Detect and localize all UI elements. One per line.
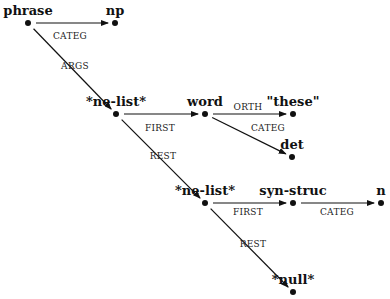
edge-label: CATEG xyxy=(53,32,87,41)
node-label-nelist2: *ne-list* xyxy=(175,184,235,197)
node-dot xyxy=(112,20,118,26)
node-label-phrase: phrase xyxy=(3,4,52,17)
feature-structure-diagram: CATEGARGSFIRSTORTHCATEGRESTFIRSTCATEGRES… xyxy=(0,0,390,299)
node-label-these: "these" xyxy=(267,95,320,108)
node-label-null: *null* xyxy=(272,273,314,286)
node-dot xyxy=(290,289,296,295)
node-dot xyxy=(289,154,295,160)
node-dot xyxy=(202,111,208,117)
node-label-np: np xyxy=(106,4,125,17)
edge-label: FIRST xyxy=(145,124,175,133)
node-dot xyxy=(25,20,31,26)
edge-label: CATEG xyxy=(320,208,354,217)
edge-label: ARGS xyxy=(61,62,89,71)
edge-label: ORTH xyxy=(233,103,262,112)
edges-layer xyxy=(0,0,390,299)
node-dot xyxy=(290,111,296,117)
node-dot xyxy=(113,111,119,117)
node-label-n: n xyxy=(376,184,385,197)
node-dot xyxy=(202,200,208,206)
node-dot xyxy=(378,200,384,206)
edge-label: FIRST xyxy=(233,208,263,217)
edge-label: CATEG xyxy=(251,124,285,133)
node-dot xyxy=(290,200,296,206)
edge-label: REST xyxy=(240,240,267,249)
node-label-det: det xyxy=(280,138,303,151)
node-label-nelist1: *ne-list* xyxy=(86,95,146,108)
edge-label: REST xyxy=(150,152,177,161)
node-label-word: word xyxy=(187,95,223,108)
node-label-synstruc: syn-struc xyxy=(259,184,326,197)
